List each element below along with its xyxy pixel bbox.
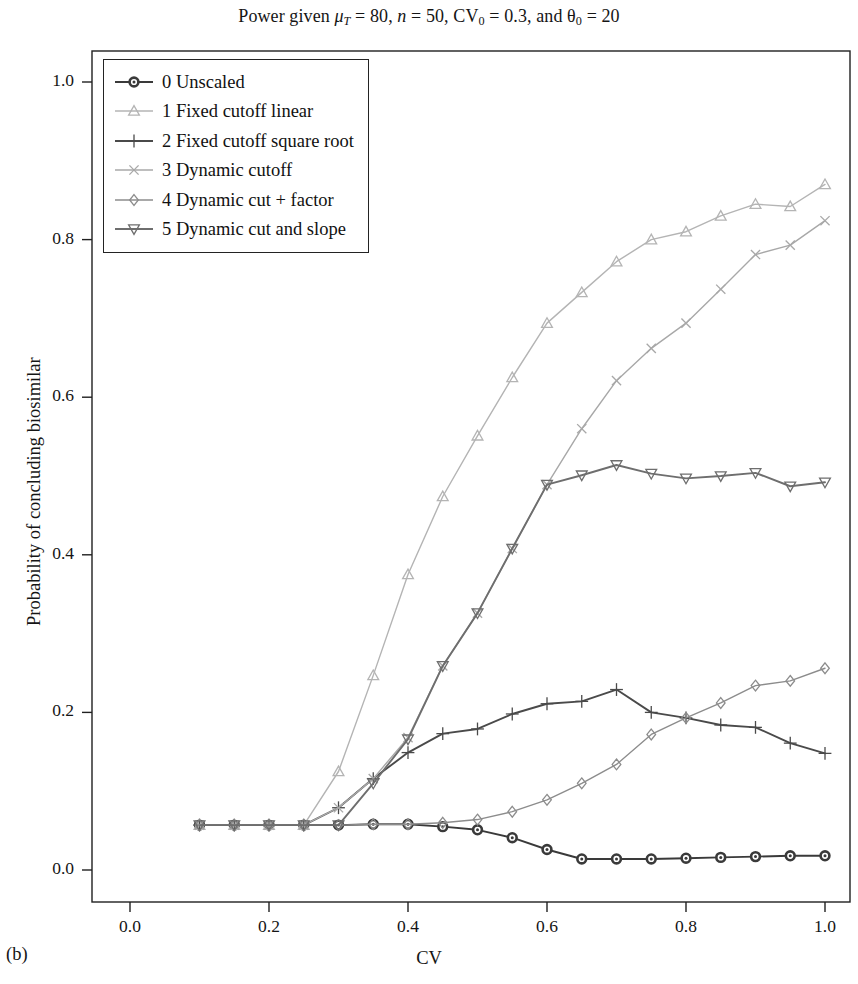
figure-panel-b: Power given μT = 80, n = 50, CV0 = 0.3, … [0, 0, 858, 984]
x-tick-label: 0.0 [95, 916, 165, 937]
legend-item-3: 3 Dynamic cutoff [113, 156, 354, 186]
series-line-5 [194, 461, 830, 831]
x-axis-label: CV [0, 948, 858, 969]
legend-item-5: 5 Dynamic cut and slope [113, 215, 354, 245]
y-tick-label: 0.8 [18, 228, 74, 249]
legend-marker-triangle-up-icon [113, 101, 155, 121]
y-tick-label: 0.4 [18, 543, 74, 564]
series-line-1 [194, 179, 830, 829]
data-series-layer [193, 179, 831, 863]
legend-marker-x-icon [113, 160, 155, 180]
series-line-4 [195, 663, 829, 831]
legend-item-2: 2 Fixed cutoff square root [113, 126, 354, 156]
legend: 0 Unscaled1 Fixed cutoff linear2 Fixed c… [103, 59, 369, 253]
legend-item-label: 2 Fixed cutoff square root [162, 132, 354, 151]
legend-item-label: 4 Dynamic cut + factor [162, 191, 334, 210]
legend-item-4: 4 Dynamic cut + factor [113, 185, 354, 215]
y-tick-label: 0.6 [18, 385, 74, 406]
series-line-0 [195, 820, 829, 863]
legend-item-label: 5 Dynamic cut and slope [162, 220, 346, 239]
x-tick-label: 0.2 [234, 916, 304, 937]
legend-item-label: 3 Dynamic cutoff [162, 161, 292, 180]
x-tick-label: 0.6 [512, 916, 582, 937]
x-tick-label: 0.8 [651, 916, 721, 937]
legend-item-0: 0 Unscaled [113, 67, 354, 97]
x-tick-label: 1.0 [790, 916, 858, 937]
series-line-3 [195, 216, 830, 830]
legend-marker-diamond-icon [113, 190, 155, 210]
x-tick-label: 0.4 [373, 916, 443, 937]
series-line-2 [193, 683, 831, 831]
y-tick-label: 0.0 [18, 858, 74, 879]
legend-marker-circle-filled-icon [113, 72, 155, 92]
legend-item-1: 1 Fixed cutoff linear [113, 97, 354, 127]
y-tick-label: 0.2 [18, 700, 74, 721]
legend-item-label: 1 Fixed cutoff linear [162, 102, 313, 121]
panel-label: (b) [6, 944, 28, 965]
legend-marker-triangle-down-icon [113, 219, 155, 239]
legend-marker-plus-icon [113, 131, 155, 151]
legend-item-label: 0 Unscaled [162, 73, 245, 92]
y-tick-label: 1.0 [18, 70, 74, 91]
